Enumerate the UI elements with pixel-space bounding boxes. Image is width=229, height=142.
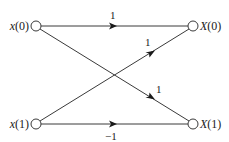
edge-weight-label: −1 <box>105 130 117 141</box>
edge-x1-X1: −1 <box>41 121 188 142</box>
arrow-icon <box>146 51 156 58</box>
node-label: X(1) <box>199 117 221 131</box>
node-circle-icon <box>188 119 198 129</box>
node-label: X(0) <box>199 19 221 33</box>
edge-weight-label: 1 <box>156 83 162 95</box>
node-X0: X(0) <box>188 19 221 33</box>
node-x1: x(1) <box>9 117 41 131</box>
arrow-icon <box>146 93 156 100</box>
node-circle-icon <box>31 21 41 31</box>
node-circle-icon <box>188 21 198 31</box>
node-label: x(1) <box>9 117 29 131</box>
node-label: x(0) <box>9 19 29 33</box>
butterfly-diagram: 1 1 1 −1 x(0) x(1) X(0) X(1) <box>0 0 229 141</box>
edge-weight-label: 1 <box>145 36 151 48</box>
node-x0: x(0) <box>9 19 41 33</box>
edge-x0-X0: 1 <box>41 9 188 30</box>
node-X1: X(1) <box>188 117 221 131</box>
node-circle-icon <box>31 119 41 129</box>
edge-weight-label: 1 <box>110 9 116 21</box>
